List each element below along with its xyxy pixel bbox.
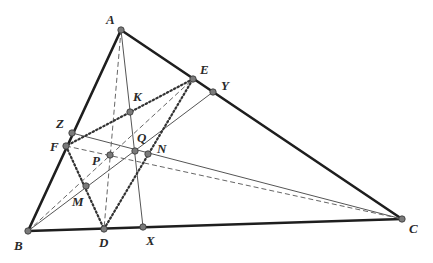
point-Z bbox=[69, 130, 75, 136]
label-E: E bbox=[199, 62, 209, 77]
segment-BY bbox=[28, 92, 213, 231]
label-B: B bbox=[13, 238, 23, 253]
label-Z: Z bbox=[55, 116, 64, 131]
label-F: F bbox=[49, 139, 59, 154]
segment-AX bbox=[121, 30, 143, 227]
segment-BC bbox=[28, 219, 402, 231]
point-E bbox=[190, 76, 196, 82]
label-P: P bbox=[92, 153, 101, 168]
segment-ZC bbox=[72, 133, 402, 219]
segment-CA bbox=[121, 30, 402, 219]
point-D bbox=[101, 226, 107, 232]
point-M bbox=[83, 183, 89, 189]
point-B bbox=[25, 228, 31, 234]
point-C bbox=[399, 216, 405, 222]
label-M: M bbox=[71, 194, 84, 209]
label-C: C bbox=[409, 221, 418, 236]
point-K bbox=[127, 109, 133, 115]
point-N bbox=[145, 151, 151, 157]
label-Q: Q bbox=[137, 130, 147, 145]
point-Q bbox=[132, 148, 138, 154]
label-D: D bbox=[98, 235, 109, 250]
geometry-diagram: A B C D E F X Y Z K Q N P M bbox=[0, 0, 433, 263]
label-N: N bbox=[156, 141, 167, 156]
label-A: A bbox=[105, 12, 115, 27]
point-P bbox=[107, 152, 113, 158]
point-X bbox=[140, 224, 146, 230]
label-K: K bbox=[132, 89, 143, 104]
label-X: X bbox=[145, 233, 155, 248]
label-Y: Y bbox=[221, 78, 230, 93]
point-A bbox=[118, 27, 124, 33]
point-F bbox=[63, 143, 69, 149]
point-Y bbox=[210, 89, 216, 95]
